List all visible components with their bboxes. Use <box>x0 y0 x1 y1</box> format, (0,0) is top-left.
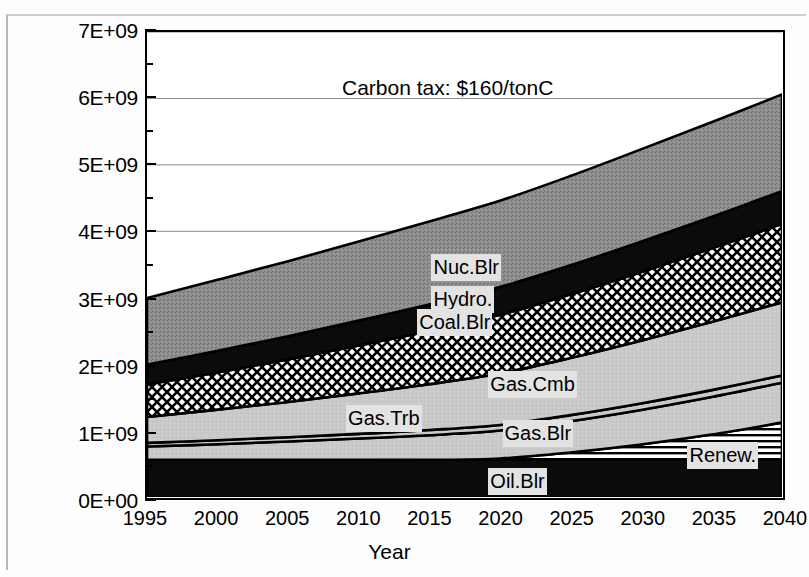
y-tick-mark-minor <box>145 63 153 65</box>
carbon-tax-annotation: Carbon tax: $160/tonC <box>342 76 553 100</box>
x-tick-label: 1995 <box>123 508 168 528</box>
y-tick-mark-minor <box>145 197 153 199</box>
y-tick-label: 2E+09 <box>20 355 138 376</box>
x-tick-label: 2030 <box>621 508 666 528</box>
y-tick-label: 4E+09 <box>20 221 138 242</box>
y-axis: 0E+001E+092E+093E+094E+095E+096E+097E+09 <box>18 0 138 577</box>
series-label: Gas.Blr <box>503 420 574 447</box>
y-tick-mark-minor <box>145 465 153 467</box>
x-tick-label: 2005 <box>265 508 310 528</box>
y-tick-mark <box>145 365 156 367</box>
y-tick-mark <box>145 298 156 300</box>
y-tick-mark-minor <box>145 264 153 266</box>
series-label: Gas.Trb <box>346 405 422 432</box>
y-tick-mark-minor <box>145 130 153 132</box>
y-tick-mark <box>145 432 156 434</box>
series-label: Gas.Cmb <box>488 371 576 398</box>
plot-area: Nuc.BlrHydro.Coal.BlrGas.CmbGas.TrbGas.B… <box>145 30 785 500</box>
y-tick-mark-minor <box>145 398 153 400</box>
x-tick-label: 2040 <box>763 508 808 528</box>
y-tick-label: 1E+09 <box>20 422 138 443</box>
x-axis-title: Year <box>0 540 809 564</box>
y-tick-label: 6E+09 <box>20 87 138 108</box>
chart-page: 0E+001E+092E+093E+094E+095E+096E+097E+09 <box>0 0 809 577</box>
y-tick-mark-minor <box>145 331 153 333</box>
y-tick-label: 3E+09 <box>20 288 138 309</box>
series-label: Renew. <box>687 442 758 469</box>
x-tick-label: 2025 <box>549 508 594 528</box>
y-tick-mark <box>145 499 156 501</box>
x-axis-title-text: Year <box>368 540 410 563</box>
x-tick-label: 2035 <box>692 508 737 528</box>
y-tick-label: 5E+09 <box>20 154 138 175</box>
x-tick-label: 2010 <box>336 508 381 528</box>
y-tick-mark <box>145 29 156 31</box>
y-tick-mark <box>145 96 156 98</box>
x-tick-label: 2015 <box>407 508 452 528</box>
y-tick-label: 7E+09 <box>20 20 138 41</box>
y-tick-mark <box>145 230 156 232</box>
series-label: Coal.Blr <box>417 309 492 336</box>
series-label: Oil.Blr <box>488 468 546 495</box>
series-label: Nuc.Blr <box>431 254 501 281</box>
x-tick-label: 2020 <box>478 508 523 528</box>
y-tick-mark <box>145 163 156 165</box>
x-tick-label: 2000 <box>194 508 239 528</box>
